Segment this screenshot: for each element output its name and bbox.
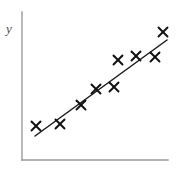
plot-canvas: y bbox=[0, 0, 180, 172]
y-axis-label: y bbox=[4, 21, 12, 36]
scatter-plot-figure: y bbox=[0, 0, 180, 172]
plot-background bbox=[0, 0, 180, 172]
